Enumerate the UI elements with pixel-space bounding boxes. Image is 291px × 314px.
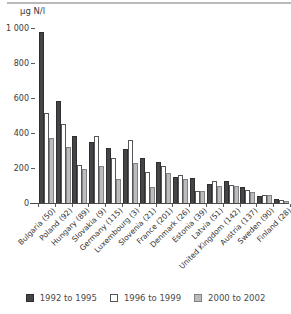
bar-group [223,28,240,203]
legend-swatch-icon [194,294,202,302]
x-tick-mark [189,204,190,207]
bar-group [105,28,122,203]
x-tick-mark [206,204,207,207]
bar [166,173,171,203]
nitrate-bar-chart-figure: µg N/l 02004006008001 000 Bulgaria (50)P… [0,0,291,314]
y-tick-mark [31,28,35,29]
x-tick-mark [172,204,173,207]
y-tick-label: 600 [0,94,29,103]
bar [82,169,87,203]
legend-label: 1996 to 1999 [124,293,181,303]
y-tick-label: 400 [0,129,29,138]
chart-legend: 1992 to 19951996 to 19992000 to 2002 [0,293,291,303]
x-tick-mark [55,204,56,207]
bar-group [122,28,139,203]
bar-group [156,28,173,203]
x-tick-mark [139,204,140,207]
bar [150,187,155,203]
bar-group [189,28,206,203]
x-tick-mark [256,204,257,207]
bar [234,186,239,203]
x-tick-mark [273,204,274,207]
y-tick-label: 200 [0,164,29,173]
bar [200,191,205,203]
top-divider-rule [7,2,291,4]
legend-label: 1992 to 1995 [40,293,97,303]
bar [99,166,104,203]
bar-group [38,28,55,203]
x-tick-mark [122,204,123,207]
x-tick-mark [88,204,89,207]
bar [284,201,289,203]
y-axis-unit-label: µg N/l [20,6,45,16]
bar-group [72,28,89,203]
y-tick-label: 1 000 [0,24,29,33]
bar-group [139,28,156,203]
bar-group [206,28,223,203]
bar [250,192,255,203]
bar [116,179,121,203]
x-tick-mark [105,204,106,207]
legend-swatch-icon [26,294,34,302]
bar [49,138,54,203]
bar [183,179,188,203]
x-axis-line [30,203,289,204]
x-tick-mark [38,204,39,207]
y-tick-label: 0 [0,199,29,208]
bar-group [55,28,72,203]
bar [217,186,222,204]
y-tick-mark [31,133,35,134]
bar-group [273,28,290,203]
bar-group [172,28,189,203]
legend-item: 1992 to 1995 [26,293,97,303]
bar [133,163,138,203]
x-tick-mark [156,204,157,207]
y-tick-mark [31,63,35,64]
bar-group [256,28,273,203]
y-tick-mark [31,168,35,169]
legend-item: 1996 to 1999 [110,293,181,303]
x-tick-mark [240,204,241,207]
legend-item: 2000 to 2002 [194,293,265,303]
bar [66,147,71,203]
legend-label: 2000 to 2002 [208,293,265,303]
y-tick-label: 800 [0,59,29,68]
bar [267,195,272,203]
x-tick-mark [72,204,73,207]
legend-swatch-icon [110,294,118,302]
bar-group [88,28,105,203]
bar-group [240,28,257,203]
y-tick-mark [31,98,35,99]
x-tick-mark [290,204,291,207]
x-tick-mark [223,204,224,207]
